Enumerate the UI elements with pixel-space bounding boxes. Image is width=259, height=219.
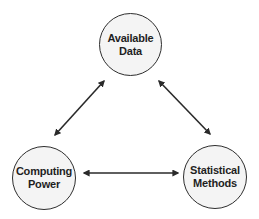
node-label-line2: Methods [190, 177, 240, 190]
node-label-line1: Available [107, 32, 153, 45]
node-available-data: Available Data [99, 13, 162, 76]
node-label-line1: Statistical [190, 164, 240, 177]
node-computing-power: Computing Power [12, 146, 76, 210]
node-label-line1: Computing [16, 165, 72, 178]
relationship-diagram: Available Data Computing Power Statistic… [0, 0, 259, 219]
node-label: Computing Power [16, 165, 72, 191]
node-label-line2: Power [16, 178, 72, 191]
node-label-line2: Data [107, 45, 153, 58]
arrow-data-computing [55, 81, 104, 135]
node-label: Statistical Methods [190, 164, 240, 190]
arrow-data-statistical [159, 81, 210, 134]
node-label: Available Data [107, 32, 153, 58]
node-statistical-methods: Statistical Methods [183, 145, 247, 209]
